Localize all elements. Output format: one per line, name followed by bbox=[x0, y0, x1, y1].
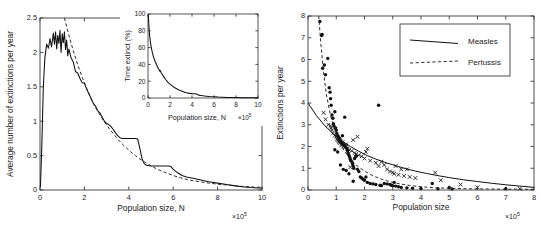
marker-dot bbox=[336, 150, 339, 153]
marker-x bbox=[402, 174, 406, 178]
marker-dot bbox=[450, 187, 453, 190]
marker-dot bbox=[343, 115, 346, 118]
marker-x bbox=[433, 171, 437, 175]
marker-dot bbox=[320, 33, 323, 36]
y-ticklabel: 40 bbox=[138, 61, 146, 68]
left-panel-svg: 0246810 00.511.522.5 Population size, N … bbox=[0, 0, 272, 230]
marker-dot bbox=[397, 185, 400, 188]
marker-dot bbox=[419, 187, 422, 190]
x-ticklabel: 6 bbox=[475, 193, 479, 202]
y-ticklabel: 2 bbox=[301, 142, 305, 151]
y-ticklabel: 0 bbox=[301, 185, 305, 194]
marker-dot bbox=[344, 169, 347, 172]
left-x-exponent: ×105 bbox=[232, 211, 247, 220]
marker-dot bbox=[327, 86, 330, 89]
marker-dot bbox=[318, 20, 321, 23]
left-x-ticklabels: 0246810 bbox=[38, 193, 266, 202]
marker-dot bbox=[411, 187, 414, 190]
y-ticklabel: 1 bbox=[301, 164, 305, 173]
x-ticklabel: 0 bbox=[38, 193, 42, 202]
marker-dot bbox=[335, 128, 338, 131]
x-ticklabel: 10 bbox=[258, 193, 266, 202]
marker-x bbox=[324, 117, 328, 121]
right-legend: Measles Pertussis bbox=[400, 24, 510, 76]
marker-dot bbox=[394, 184, 397, 187]
legend-label-measles: Measles bbox=[468, 37, 498, 46]
marker-dot bbox=[324, 73, 327, 76]
y-ticklabel: 1 bbox=[33, 117, 37, 126]
y-ticklabel: 6 bbox=[301, 55, 305, 64]
left-panel: 0246810 00.511.522.5 Population size, N … bbox=[0, 0, 272, 230]
x-ticklabel: 3 bbox=[391, 193, 395, 202]
x-ticklabel: 10 bbox=[254, 101, 262, 108]
marker-x bbox=[408, 175, 412, 179]
figure-container: 0246810 00.511.522.5 Population size, N … bbox=[0, 0, 545, 230]
x-ticklabel: 0 bbox=[146, 101, 150, 108]
marker-dot bbox=[374, 183, 377, 186]
y-ticklabel: 1.5 bbox=[27, 82, 37, 91]
legend-label-pertussis: Pertussis bbox=[468, 58, 501, 67]
marker-x bbox=[377, 164, 381, 168]
y-ticklabel: 0 bbox=[33, 185, 37, 194]
x-ticklabel: 6 bbox=[171, 193, 175, 202]
y-ticklabel: 8 bbox=[301, 11, 305, 20]
marker-dot bbox=[329, 97, 332, 100]
y-ticklabel: 2.5 bbox=[27, 13, 37, 22]
marker-x bbox=[368, 159, 372, 163]
right-x-ticklabels: 012345678 bbox=[306, 193, 536, 202]
marker-x bbox=[356, 135, 360, 139]
marker-x bbox=[382, 163, 386, 167]
marker-x bbox=[385, 167, 389, 171]
marker-dot bbox=[329, 103, 332, 106]
y-ticklabel: 7 bbox=[301, 33, 305, 42]
marker-dot bbox=[405, 186, 408, 189]
right-x-axis-label: Population size bbox=[393, 202, 450, 212]
x-ticklabel: 2 bbox=[168, 101, 172, 108]
y-ticklabel: 80 bbox=[138, 27, 146, 34]
right-panel: 012345678 012345678 Population size ×105… bbox=[272, 0, 545, 230]
x-ticklabel: 4 bbox=[127, 193, 131, 202]
x-ticklabel: 5 bbox=[447, 193, 451, 202]
y-ticklabel: 4 bbox=[301, 98, 305, 107]
x-ticklabel: 8 bbox=[216, 193, 220, 202]
y-ticklabel: 2 bbox=[33, 48, 37, 57]
marker-x bbox=[363, 157, 367, 161]
marker-dot bbox=[347, 172, 350, 175]
y-ticklabel: 60 bbox=[138, 44, 146, 51]
left-x-axis-label: Population size, N bbox=[117, 203, 185, 213]
marker-dot bbox=[377, 103, 380, 106]
marker-dot bbox=[385, 182, 388, 185]
left-y-axis-label: Average number of extinctions per year bbox=[5, 31, 15, 177]
marker-x bbox=[392, 172, 396, 176]
x-ticklabel: 8 bbox=[234, 101, 238, 108]
marker-x bbox=[322, 111, 326, 115]
x-ticklabel: 1 bbox=[334, 193, 338, 202]
y-ticklabel: 0 bbox=[142, 94, 146, 101]
y-ticklabel: 5 bbox=[301, 77, 305, 86]
x-ticklabel: 2 bbox=[82, 193, 86, 202]
x-ticklabel: 0 bbox=[306, 193, 310, 202]
right-panel-svg: 012345678 012345678 Population size ×105… bbox=[272, 0, 545, 230]
x-ticklabel: 7 bbox=[504, 193, 508, 202]
marker-dot bbox=[333, 148, 336, 151]
marker-dot bbox=[339, 163, 342, 166]
marker-dot bbox=[400, 186, 403, 189]
marker-x bbox=[439, 178, 443, 182]
y-ticklabel: 20 bbox=[138, 78, 146, 85]
marker-x bbox=[413, 176, 417, 180]
marker-dot bbox=[352, 180, 355, 183]
marker-dot bbox=[341, 134, 344, 137]
marker-dot bbox=[364, 175, 367, 178]
right-y-ticklabels: 012345678 bbox=[301, 11, 305, 194]
inset-y-axis-label: Time extinct (%) bbox=[123, 30, 132, 82]
x-ticklabel: 8 bbox=[532, 193, 536, 202]
marker-dot bbox=[363, 179, 366, 182]
right-y-axis-label: Extinctions per year bbox=[275, 66, 285, 140]
right-x-exponent: ×105 bbox=[505, 211, 520, 220]
marker-dot bbox=[333, 110, 336, 113]
x-ticklabel: 4 bbox=[419, 193, 423, 202]
marker-dot bbox=[371, 182, 374, 185]
left-y-ticklabels: 00.511.522.5 bbox=[27, 13, 37, 194]
inset-panel: 0246810 020406080100 Population size, N … bbox=[120, 8, 272, 126]
marker-dot bbox=[431, 182, 434, 185]
